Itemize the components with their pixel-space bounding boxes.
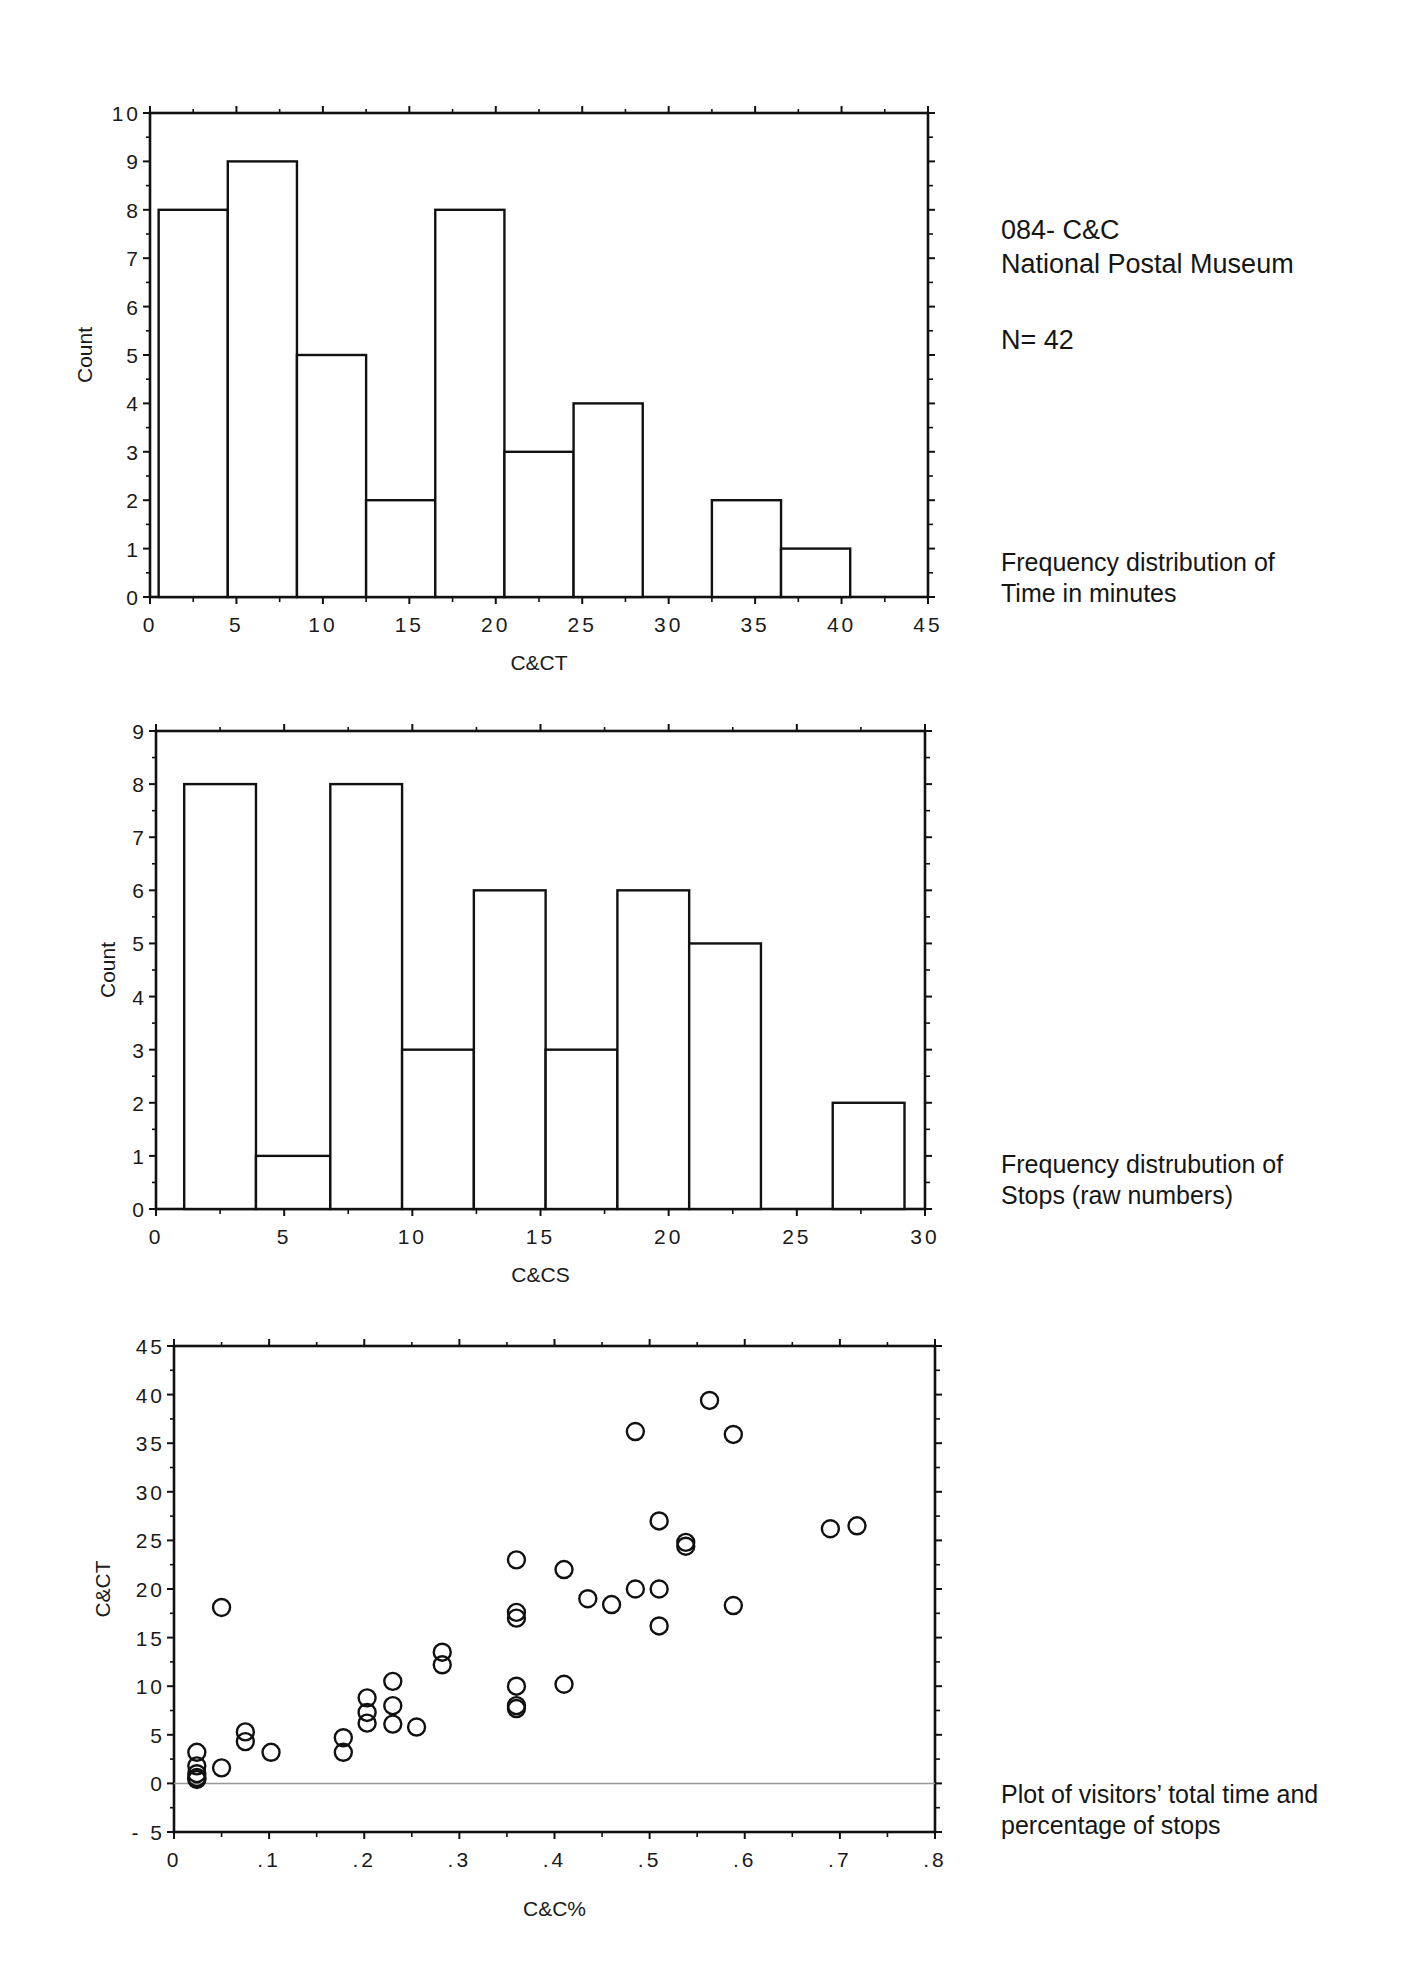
y-tick-label: 0	[150, 1772, 165, 1795]
x-tick-label: 5	[229, 613, 244, 636]
histogram-bar	[402, 1050, 474, 1209]
x-tick-label: 30	[910, 1225, 939, 1248]
x-tick-label: 25	[568, 613, 597, 636]
histogram-bar	[256, 1156, 330, 1209]
scatter-point	[677, 1534, 694, 1551]
x-axis-title: C&C%	[523, 1897, 586, 1920]
scatter-point	[237, 1733, 254, 1750]
y-tick-label: 9	[132, 720, 147, 743]
x-tick-label: 15	[526, 1225, 555, 1248]
histogram-bar	[159, 210, 228, 597]
histogram-bar	[574, 403, 643, 597]
y-tick-label: 8	[126, 199, 141, 222]
scatter-point	[822, 1520, 839, 1537]
scatter-point	[725, 1597, 742, 1614]
y-tick-label: 3	[132, 1039, 147, 1062]
x-tick-label: 20	[654, 1225, 683, 1248]
x-tick-label: .2	[352, 1848, 376, 1871]
y-tick-label: 30	[136, 1481, 165, 1504]
histogram-bar	[712, 500, 781, 597]
y-tick-label: 5	[150, 1724, 165, 1747]
x-tick-label: 20	[481, 613, 510, 636]
x-tick-label: .1	[257, 1848, 281, 1871]
histogram-bar	[366, 500, 435, 597]
x-tick-label: 15	[395, 613, 424, 636]
x-tick-label: .8	[923, 1848, 947, 1871]
y-tick-label: 7	[132, 826, 147, 849]
y-tick-label: 4	[126, 392, 141, 415]
x-tick-label: 5	[277, 1225, 292, 1248]
y-tick-label: 10	[112, 102, 141, 125]
y-tick-label: 1	[132, 1145, 147, 1168]
scatter-point	[556, 1676, 573, 1693]
y-tick-label: - 5	[131, 1821, 165, 1844]
y-tick-label: 0	[132, 1198, 147, 1221]
y-tick-label: 4	[132, 986, 147, 1009]
caption-stops-line2: Stops (raw numbers)	[1001, 1180, 1233, 1211]
scatter-point	[627, 1423, 644, 1440]
figure-canvas: 051015202530354045012345678910C&CTCount …	[0, 0, 1418, 1980]
header-museum-name: National Postal Museum	[1001, 248, 1294, 281]
scatter-point	[263, 1744, 280, 1761]
y-tick-label: 5	[126, 344, 141, 367]
y-tick-label: 15	[136, 1627, 165, 1650]
x-tick-label: .3	[448, 1848, 472, 1871]
scatter-point	[359, 1715, 376, 1732]
y-tick-label: 9	[126, 150, 141, 173]
scatter-point	[651, 1512, 668, 1529]
histogram-bar	[330, 784, 402, 1209]
scatter-point	[725, 1426, 742, 1443]
caption-time-line2: Time in minutes	[1001, 578, 1177, 609]
y-tick-label: 2	[132, 1092, 147, 1115]
scatter-point	[627, 1581, 644, 1598]
scatter-point	[384, 1716, 401, 1733]
scatter-point	[508, 1678, 525, 1695]
histogram-bar	[833, 1103, 905, 1209]
scatter-point	[384, 1697, 401, 1714]
histogram-bar	[474, 890, 546, 1209]
x-tick-label: 10	[308, 613, 337, 636]
y-tick-label: 3	[126, 441, 141, 464]
caption-time-line1: Frequency distribution of	[1001, 547, 1275, 578]
time-histogram: 051015202530354045012345678910C&CTCount	[73, 102, 943, 674]
histogram-bar	[546, 1050, 618, 1209]
x-tick-label: 40	[827, 613, 856, 636]
x-tick-label: .4	[543, 1848, 567, 1871]
y-axis-title: Count	[96, 942, 119, 998]
x-axis-title: C&CT	[510, 651, 567, 674]
histogram-bar	[617, 890, 689, 1209]
scatter-point	[603, 1596, 620, 1613]
x-tick-label: 45	[913, 613, 942, 636]
x-tick-label: 30	[654, 613, 683, 636]
x-axis-title: C&CS	[511, 1263, 569, 1286]
x-tick-label: 0	[149, 1225, 164, 1248]
y-tick-label: 20	[136, 1578, 165, 1601]
x-tick-label: 0	[167, 1848, 182, 1871]
scatter-point	[213, 1759, 230, 1776]
x-tick-label: 0	[143, 613, 158, 636]
y-tick-label: 2	[126, 489, 141, 512]
x-tick-label: 25	[782, 1225, 811, 1248]
scatter-point	[651, 1581, 668, 1598]
scatter-point	[651, 1617, 668, 1634]
scatter-point	[677, 1538, 694, 1555]
y-tick-label: 25	[136, 1529, 165, 1552]
y-tick-label: 8	[132, 773, 147, 796]
histogram-bar	[297, 355, 366, 597]
histogram-bar	[435, 210, 504, 597]
y-axis-title: Count	[73, 327, 96, 383]
caption-scatter-line1: Plot of visitors’ total time and	[1001, 1779, 1318, 1810]
scatter-point	[384, 1673, 401, 1690]
scatter-point	[408, 1719, 425, 1736]
y-tick-label: 5	[132, 932, 147, 955]
x-tick-label: 35	[740, 613, 769, 636]
histogram-bar	[504, 452, 573, 597]
stops-histogram: 0510152025300123456789C&CSCount	[96, 720, 940, 1286]
scatter-point	[508, 1551, 525, 1568]
y-tick-label: 6	[126, 296, 141, 319]
sample-size-label: N= 42	[1001, 324, 1074, 357]
x-tick-label: .7	[828, 1848, 852, 1871]
histogram-bar	[689, 943, 761, 1209]
scatter-point	[579, 1590, 596, 1607]
caption-scatter-line2: percentage of stops	[1001, 1810, 1221, 1841]
